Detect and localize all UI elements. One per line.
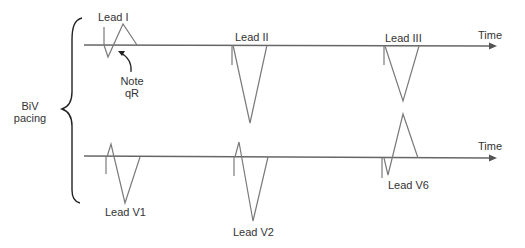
arrowhead-icon <box>489 43 497 50</box>
time-axis-bottom <box>84 156 490 158</box>
label-lead-v1: Lead V1 <box>105 206 146 218</box>
time-axis-top <box>84 45 490 46</box>
label-lead-iii: Lead III <box>385 32 422 44</box>
annotation-line2: qR <box>114 87 150 99</box>
brace-icon <box>62 18 82 203</box>
waveform-lead-v1 <box>106 144 140 203</box>
time-label-top: Time <box>478 29 502 41</box>
waveform-lead-iii <box>384 46 419 101</box>
waveform-lead-ii <box>232 45 267 123</box>
annotation-note: Note qR <box>114 75 150 99</box>
group-label-line1: BiV <box>8 100 52 112</box>
label-lead-i: Lead I <box>98 11 129 23</box>
group-label-line2: pacing <box>8 112 52 124</box>
label-lead-v6: Lead V6 <box>388 179 429 191</box>
waveform-lead-v6 <box>382 114 418 178</box>
label-lead-v2: Lead V2 <box>233 226 274 238</box>
arrowhead-icon <box>489 155 497 162</box>
annotation-arrow-icon <box>121 53 131 72</box>
annotation-line1: Note <box>114 75 150 87</box>
waveform-lead-v2 <box>234 142 268 221</box>
group-label: BiV pacing <box>8 100 52 124</box>
time-label-bottom: Time <box>478 140 502 152</box>
biv-pacing-ecg-diagram: BiV pacing Lead I Lead II Lead III Time … <box>0 0 525 248</box>
label-lead-ii: Lead II <box>235 31 269 43</box>
